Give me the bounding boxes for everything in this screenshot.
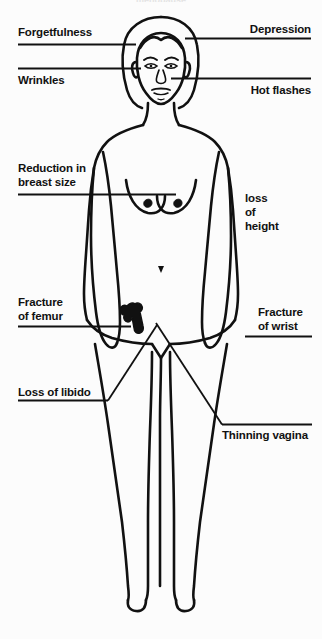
label-fracture-wrist-line1: Fracture [258,306,303,319]
mouth-lower [154,93,168,95]
leader-diagonal-loss-of-libido [108,325,157,401]
label-wrinkles: Wrinkles [18,74,65,87]
arm-right-outer [205,168,231,348]
label-depression: Depression [192,23,311,36]
label-loss-of-height-line1: loss [245,192,267,205]
arm-right-inner [202,152,219,343]
label-thinning-vagina: Thinning vagina [222,429,308,442]
label-loss-of-height-line2: of [245,206,256,219]
navel [158,266,164,273]
femur-bone-icon [120,303,143,333]
label-fracture-wrist-line2: of wrist [258,320,298,333]
body-outline [84,17,238,611]
chin-crease [158,99,164,100]
arm-left-inner [103,152,120,343]
eyebrow-left [144,58,157,60]
hairline-fringe [140,37,182,48]
leg-left-inner [146,352,152,600]
nipple-right [174,199,182,207]
label-breast-reduction-line2: breast size [18,176,76,189]
inner-leg-seam [160,358,161,586]
leg-left-outer [95,344,129,600]
mouth-upper [152,89,170,91]
menopause-symptoms-diagram: menopause [0,0,322,639]
label-fracture-femur-line2: of femur [18,310,63,323]
leg-right-outer [193,344,227,600]
leg-right-inner [170,352,176,600]
label-loss-of-height-line3: height [245,220,279,233]
nose [156,70,166,84]
label-breast-reduction-line1: Reduction in [18,162,86,175]
label-fracture-femur-line1: Fracture [18,296,63,309]
crotch-v [152,344,170,358]
label-forgetfulness: Forgetfulness [18,26,92,39]
eyebrow-right [165,58,178,60]
hair-left-outline [123,17,161,108]
neck-right [174,103,179,125]
pupil-left [150,65,153,68]
pupil-right [170,65,173,68]
neck-left [143,103,148,125]
foot-left [128,600,146,611]
label-loss-of-libido: Loss of libido [18,386,91,399]
label-hot-flashes: Hot flashes [192,84,311,97]
nipple-left [144,199,152,207]
foot-right [176,600,194,611]
